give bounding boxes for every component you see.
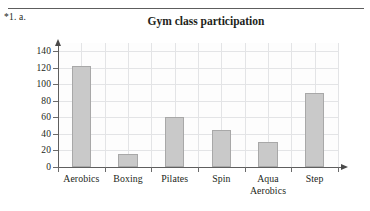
y-axis-tick (53, 68, 58, 69)
y-axis-tick (53, 134, 58, 135)
x-axis-tick (291, 167, 292, 172)
x-axis-tick (198, 167, 199, 172)
x-axis-label-aerobics: Aerobics (58, 173, 105, 185)
gridline-vertical (198, 43, 199, 167)
y-axis-tick (53, 150, 58, 151)
y-axis-tick (53, 117, 58, 118)
x-axis-label-line: Boxing (113, 173, 142, 184)
y-axis-arrow-icon (55, 39, 61, 46)
header-divider (8, 8, 364, 9)
y-axis-tick-label: 100 (19, 79, 51, 89)
x-axis-label-line: Aerobics (63, 173, 99, 184)
gridline-vertical (291, 43, 292, 167)
y-axis-tick (53, 101, 58, 102)
y-axis-tick-label: 140 (19, 46, 51, 56)
x-axis-label-line: Aerobics (245, 185, 292, 197)
x-axis-tick (338, 167, 339, 172)
x-axis-tick (105, 167, 106, 172)
gridline-vertical (128, 43, 129, 167)
x-axis-label-line: Spin (212, 173, 230, 184)
y-axis-tick-label: 0 (19, 162, 51, 172)
x-axis-label-line: Step (306, 173, 324, 184)
bar-pilates (165, 117, 185, 167)
x-axis-tick (151, 167, 152, 172)
x-axis-label-step: Step (291, 173, 338, 185)
x-axis-label-pilates: Pilates (151, 173, 198, 185)
y-axis-line (58, 45, 59, 168)
y-axis-tick (53, 51, 58, 52)
x-axis-label-line: Pilates (161, 173, 188, 184)
x-axis-tick (58, 167, 59, 172)
gridline-vertical (105, 43, 106, 167)
question-number-label: *1. a. (4, 12, 26, 23)
x-axis-label-spin: Spin (198, 173, 245, 185)
y-axis-tick (53, 84, 58, 85)
bar-aerobics (72, 66, 92, 167)
gridline-vertical (151, 43, 152, 167)
bar-spin (212, 130, 232, 167)
y-axis-tick-label: 80 (19, 96, 51, 106)
gridline-vertical (245, 43, 246, 167)
x-axis-label-line: Aqua (257, 173, 279, 184)
y-axis-tick-label: 40 (19, 129, 51, 139)
bar-boxing (118, 154, 138, 167)
y-axis-tick-label: 60 (19, 112, 51, 122)
y-axis-tick-label: 20 (19, 145, 51, 155)
gridline-vertical (338, 43, 339, 167)
x-axis-arrow-icon (341, 164, 348, 170)
plot-area (58, 43, 338, 167)
x-axis-line (57, 167, 342, 168)
x-axis-tick (245, 167, 246, 172)
bar-aqua-aerobics (258, 142, 278, 167)
page-root: *1. a. Gym class participation 020406080… (0, 0, 370, 211)
x-axis-label-boxing: Boxing (105, 173, 152, 185)
x-axis-label-aqua-aerobics: AquaAerobics (245, 173, 292, 197)
bar-step (305, 93, 325, 167)
y-axis-tick-label: 120 (19, 63, 51, 73)
chart-title: Gym class participation (58, 14, 354, 28)
